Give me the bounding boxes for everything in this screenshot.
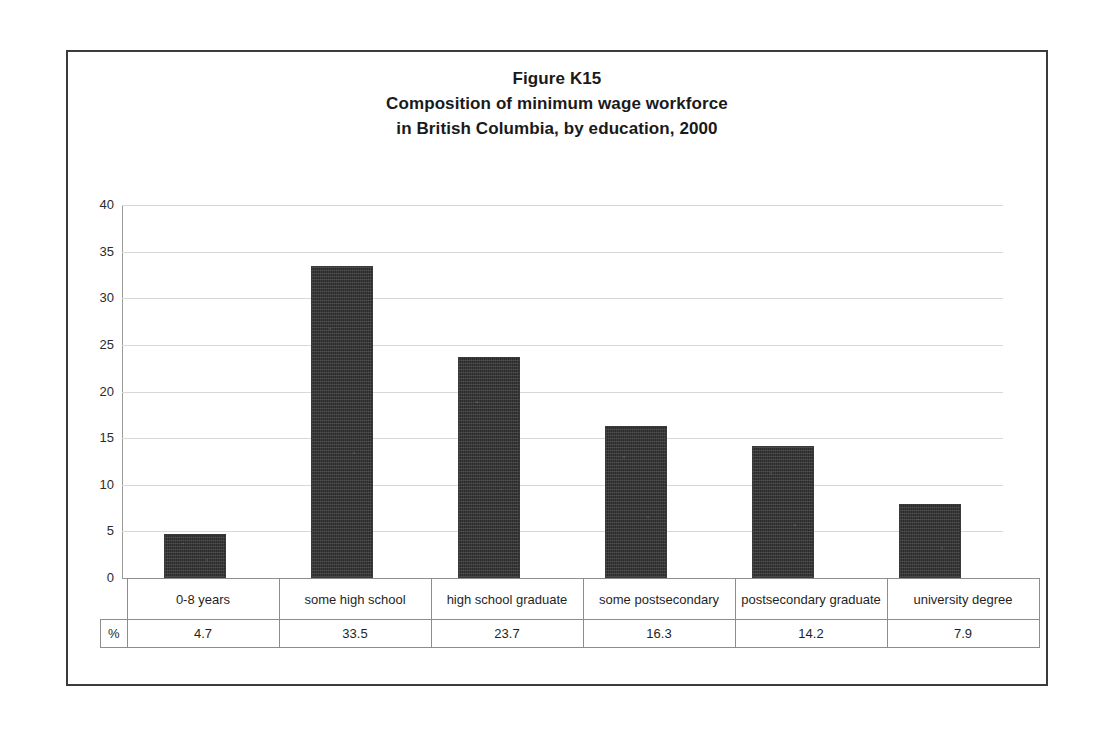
category-cell-3: high school graduate <box>431 579 583 620</box>
chart-title-block: Figure K15 Composition of minimum wage w… <box>68 66 1046 141</box>
category-cell-1: 0-8 years <box>127 579 279 620</box>
gridline-30 <box>122 298 1003 299</box>
title-line-2: Composition of minimum wage workforce <box>68 91 1046 116</box>
category-cell-2: some high school <box>279 579 431 620</box>
value-cell-6: 7.9 <box>887 620 1039 648</box>
y-axis-label-15: 15 <box>84 430 114 445</box>
y-axis-label-10: 10 <box>84 477 114 492</box>
title-line-1: Figure K15 <box>68 66 1046 91</box>
bar-4 <box>605 426 667 578</box>
figure-frame: Figure K15 Composition of minimum wage w… <box>66 50 1048 686</box>
y-axis-label-40: 40 <box>84 197 114 212</box>
gridline-15 <box>122 438 1003 439</box>
table-row-values: % 4.733.523.716.314.27.9 <box>101 620 1040 648</box>
bar-6 <box>899 504 961 578</box>
value-cell-1: 4.7 <box>127 620 279 648</box>
bar-2 <box>311 266 373 578</box>
bar-1 <box>164 534 226 578</box>
bar-3 <box>458 357 520 578</box>
gridline-10 <box>122 485 1003 486</box>
y-axis-label-20: 20 <box>84 384 114 399</box>
table-corner-blank <box>101 579 128 620</box>
title-line-3: in British Columbia, by education, 2000 <box>68 116 1046 141</box>
gridline-5 <box>122 531 1003 532</box>
value-cell-2: 33.5 <box>279 620 431 648</box>
y-axis-label-25: 25 <box>84 337 114 352</box>
value-cell-3: 23.7 <box>431 620 583 648</box>
value-cell-5: 14.2 <box>735 620 887 648</box>
gridline-25 <box>122 345 1003 346</box>
y-axis-label-30: 30 <box>84 290 114 305</box>
y-axis-tick-labels: 4035302520151050 <box>76 205 114 579</box>
gridline-40 <box>122 205 1003 206</box>
bar-5 <box>752 446 814 578</box>
plot-area <box>122 205 1003 578</box>
data-table: 0-8 yearssome high schoolhigh school gra… <box>100 578 1040 648</box>
gridline-35 <box>122 252 1003 253</box>
unit-label-cell: % <box>101 620 128 648</box>
category-cell-4: some postsecondary <box>583 579 735 620</box>
category-cell-5: postsecondary graduate <box>735 579 887 620</box>
table-row-categories: 0-8 yearssome high schoolhigh school gra… <box>101 579 1040 620</box>
y-axis-label-35: 35 <box>84 244 114 259</box>
y-axis-label-5: 5 <box>84 523 114 538</box>
value-cell-4: 16.3 <box>583 620 735 648</box>
gridline-20 <box>122 392 1003 393</box>
category-cell-6: university degree <box>887 579 1039 620</box>
